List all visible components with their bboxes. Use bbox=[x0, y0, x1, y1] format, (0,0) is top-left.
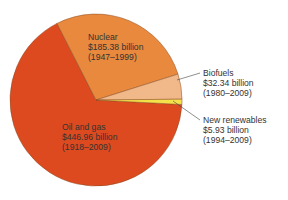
leader-biofuels bbox=[177, 73, 200, 80]
label-nuclear-name: Nuclear bbox=[88, 32, 143, 42]
label-oil-period: (1918–2009) bbox=[62, 142, 117, 152]
pie-chart bbox=[0, 0, 288, 200]
label-nuclear-value: $185.38 billion bbox=[88, 42, 143, 52]
label-new-renewables-name: New renewables bbox=[203, 115, 267, 125]
label-new-renewables-period: (1994–2009) bbox=[203, 135, 267, 145]
label-biofuels: Biofuels $32.34 billion (1980–2009) bbox=[203, 68, 254, 98]
label-nuclear-period: (1947–1999) bbox=[88, 52, 143, 62]
label-nuclear: Nuclear $185.38 billion (1947–1999) bbox=[88, 32, 143, 62]
label-new-renewables-value: $5.93 billion bbox=[203, 125, 267, 135]
label-oil-and-gas: Oil and gas $446.96 billion (1918–2009) bbox=[62, 122, 117, 152]
label-biofuels-value: $32.34 billion bbox=[203, 78, 254, 88]
label-biofuels-name: Biofuels bbox=[203, 68, 254, 78]
label-oil-name: Oil and gas bbox=[62, 122, 117, 132]
label-biofuels-period: (1980–2009) bbox=[203, 88, 254, 98]
label-new-renewables: New renewables $5.93 billion (1994–2009) bbox=[203, 115, 267, 145]
label-oil-value: $446.96 billion bbox=[62, 132, 117, 142]
